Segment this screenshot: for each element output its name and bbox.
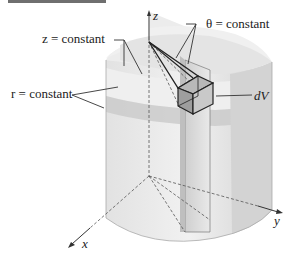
cylinder-solid xyxy=(106,12,272,241)
theta-constant-label: θ = constant xyxy=(206,16,270,31)
dv-label: dV xyxy=(254,88,271,103)
z-axis-label: z xyxy=(152,8,158,23)
r-constant-label: r = constant xyxy=(11,86,73,101)
y-axis-label: y xyxy=(272,213,280,228)
z-constant-label: z = constant xyxy=(42,31,105,46)
x-axis-label: x xyxy=(81,236,88,251)
cylindrical-coordinates-diagram: z = constant θ = constant r = constant d… xyxy=(0,0,293,262)
